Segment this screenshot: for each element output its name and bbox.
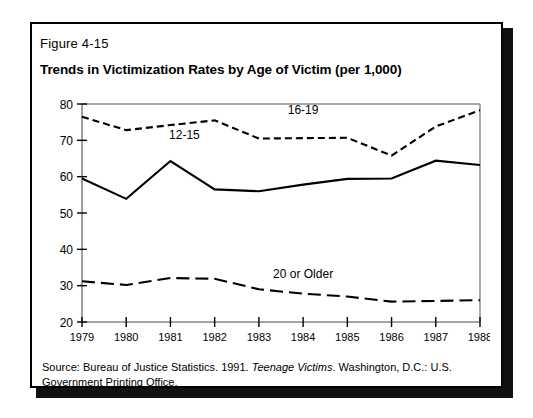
source-prefix: Source: Bureau of Justice Statistics. 19…	[42, 361, 252, 373]
series-label-0: 16-19	[288, 103, 319, 117]
series-line-0	[82, 110, 480, 155]
y-tick-label: 70	[60, 134, 74, 148]
y-tick-label: 80	[60, 98, 74, 112]
line-chart: 2030405060708019791980198119821983198419…	[40, 94, 490, 352]
series-line-2	[82, 278, 480, 302]
series-label-2: 20 or Older	[273, 267, 333, 281]
figure-container: Figure 4-15 Trends in Victimization Rate…	[0, 0, 533, 418]
source-note: Source: Bureau of Justice Statistics. 19…	[42, 360, 482, 390]
y-tick-label: 40	[60, 243, 74, 257]
x-tick-label: 1988	[468, 331, 490, 343]
x-tick-label: 1983	[247, 331, 271, 343]
source-title-italic: Teenage Victims	[252, 361, 333, 373]
x-tick-label: 1984	[291, 331, 315, 343]
x-tick-label: 1979	[70, 331, 94, 343]
x-tick-label: 1987	[424, 331, 448, 343]
x-tick-label: 1986	[379, 331, 403, 343]
x-tick-label: 1982	[202, 331, 226, 343]
x-tick-label: 1980	[114, 331, 138, 343]
figure-number: Figure 4-15	[40, 36, 109, 51]
figure-title: Trends in Victimization Rates by Age of …	[40, 62, 402, 77]
series-label-1: 12-15	[169, 128, 200, 142]
chart-plot-area: 2030405060708019791980198119821983198419…	[40, 94, 490, 352]
y-tick-label: 20	[60, 316, 74, 330]
y-tick-label: 50	[60, 207, 74, 221]
y-tick-label: 30	[60, 279, 74, 293]
y-tick-label: 60	[60, 170, 74, 184]
series-line-1	[82, 161, 480, 199]
x-tick-label: 1981	[158, 331, 182, 343]
x-tick-label: 1985	[335, 331, 359, 343]
